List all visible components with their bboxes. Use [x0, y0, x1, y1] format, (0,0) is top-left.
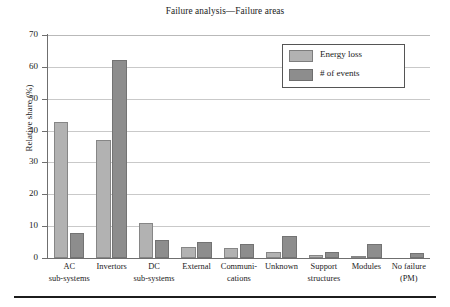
y-tick-mark — [42, 67, 47, 68]
bar-group — [175, 35, 217, 258]
x-axis-labels: ACsub-systemsInvertorsDCsub-systemsExter… — [48, 261, 430, 295]
footer-rule — [14, 296, 436, 298]
y-tick-mark — [42, 35, 47, 36]
bar — [282, 236, 297, 258]
y-tick-label: 10 — [0, 220, 38, 230]
x-axis-line — [47, 258, 430, 259]
x-tick-label: No failure(PM) — [382, 261, 436, 284]
legend-label-number-of-events: # of events — [320, 68, 360, 78]
bar — [96, 140, 111, 258]
bar — [367, 244, 382, 258]
legend-swatch-number-of-events — [289, 69, 313, 81]
bar-group — [48, 35, 90, 258]
bar — [224, 248, 239, 258]
legend-item-energy-loss: Energy loss — [289, 49, 401, 63]
bar — [351, 256, 366, 258]
bar — [155, 240, 170, 258]
legend-swatch-energy-loss — [289, 50, 313, 62]
y-tick-mark — [42, 258, 47, 259]
bar — [70, 233, 85, 258]
y-tick-mark — [42, 99, 47, 100]
y-tick-mark — [42, 194, 47, 195]
y-tick-mark — [42, 131, 47, 132]
bar — [410, 253, 425, 258]
bar — [112, 60, 127, 258]
chart-title: Failure analysis—Failure areas — [0, 6, 450, 16]
bar — [309, 255, 324, 258]
bar-group — [218, 35, 260, 258]
legend-label-energy-loss: Energy loss — [320, 49, 362, 59]
bar — [181, 247, 196, 258]
bar — [266, 252, 281, 258]
bar-group — [133, 35, 175, 258]
bar — [139, 223, 154, 258]
y-tick-mark — [42, 162, 47, 163]
y-axis-title: Relative share (%) — [24, 38, 34, 198]
bar — [240, 244, 255, 258]
bar — [325, 252, 340, 258]
y-tick-label: 0 — [0, 252, 38, 262]
chart-legend: Energy loss # of events — [282, 44, 405, 88]
legend-item-number-of-events: # of events — [289, 68, 401, 82]
figure-container: Failure analysis—Failure areas 010203040… — [0, 0, 450, 307]
bar — [197, 242, 212, 258]
y-tick-mark — [42, 226, 47, 227]
bar — [54, 122, 69, 258]
bar-group — [90, 35, 132, 258]
